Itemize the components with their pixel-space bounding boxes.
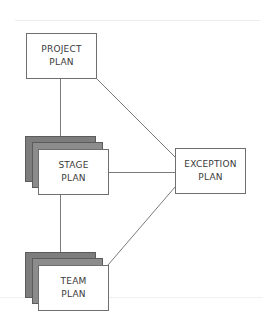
node-project-plan-label-2: PLAN (49, 56, 73, 69)
node-team-plan: TEAM PLAN (38, 265, 109, 311)
node-stage-plan-label-2: PLAN (61, 172, 85, 185)
node-exception-plan: EXCEPTION PLAN (175, 148, 246, 194)
node-stage-plan-label-1: STAGE (58, 159, 88, 172)
node-project-plan: PROJECT PLAN (26, 33, 97, 79)
edge-team-exception (108, 187, 175, 265)
diagram-canvas: PROJECT PLAN STAGE PLAN TEAM PLAN EXCEPT… (0, 0, 263, 327)
node-exception-plan-label-2: PLAN (198, 171, 222, 184)
edge-project-exception (96, 78, 175, 157)
node-team-plan-label-1: TEAM (61, 275, 87, 288)
node-project-plan-label-1: PROJECT (41, 43, 81, 56)
node-stage-plan: STAGE PLAN (38, 149, 109, 195)
node-exception-plan-label-1: EXCEPTION (184, 158, 236, 171)
node-team-plan-label-2: PLAN (61, 288, 85, 301)
